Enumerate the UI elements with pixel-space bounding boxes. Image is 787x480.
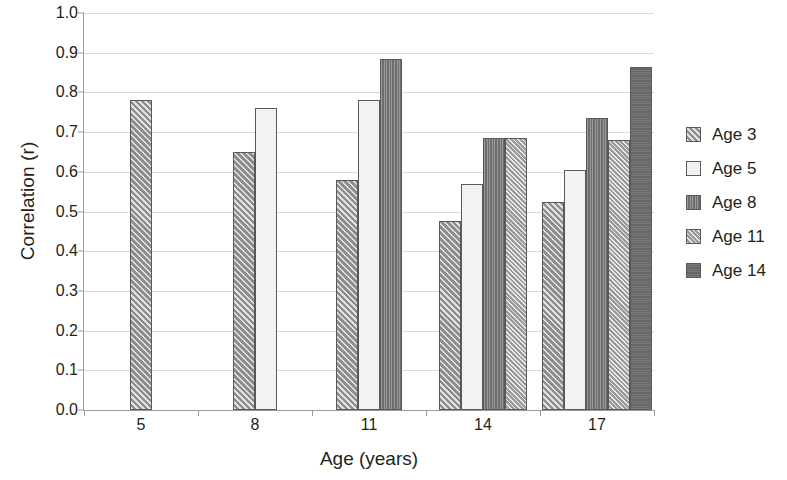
legend-item: Age 11 — [686, 228, 766, 245]
bar — [630, 67, 652, 410]
legend-swatch-icon — [686, 195, 701, 210]
plot-area — [84, 13, 654, 410]
y-axis-tick-labels: 0.00.10.20.30.40.50.60.70.80.91.0 — [36, 0, 78, 440]
bar — [483, 138, 505, 410]
y-axis-tick-label: 1.0 — [56, 5, 78, 21]
y-axis-tick-label: 0.9 — [56, 45, 78, 61]
x-axis-title: Age (years) — [84, 448, 654, 470]
bar — [130, 100, 152, 410]
legend-swatch-icon — [686, 161, 701, 176]
bar — [461, 184, 483, 410]
y-axis-tick-label: 0.4 — [56, 243, 78, 259]
legend-item: Age 3 — [686, 126, 766, 143]
bar — [255, 108, 277, 410]
bar — [608, 140, 630, 410]
x-axis-tick-label: 14 — [474, 416, 492, 434]
bar — [542, 202, 564, 410]
legend-swatch-icon — [686, 263, 701, 278]
legend-swatch-icon — [686, 229, 701, 244]
legend-item: Age 5 — [686, 160, 766, 177]
y-axis-tick-label: 0.8 — [56, 84, 78, 100]
y-axis-tick-label: 0.7 — [56, 124, 78, 140]
legend-item: Age 14 — [686, 262, 766, 279]
y-axis-tick-label: 0.3 — [56, 283, 78, 299]
bar-group — [198, 13, 312, 410]
x-axis-tick-labels: 58111417 — [84, 416, 654, 440]
bar-group — [312, 13, 426, 410]
bar-group — [84, 13, 198, 410]
legend-label: Age 14 — [712, 262, 766, 279]
bar — [586, 118, 608, 410]
bar-chart: Correlation (r) 0.00.10.20.30.40.50.60.7… — [0, 0, 787, 480]
bar — [358, 100, 380, 410]
y-axis-tick-label: 0.1 — [56, 362, 78, 378]
y-axis-tick-label: 0.2 — [56, 323, 78, 339]
bar — [336, 180, 358, 410]
y-axis-tick-label: 0.5 — [56, 204, 78, 220]
legend: Age 3Age 5Age 8Age 11Age 14 — [686, 126, 766, 279]
legend-label: Age 8 — [712, 194, 756, 211]
bar — [564, 170, 586, 410]
x-axis-tick-label: 11 — [361, 416, 378, 434]
y-axis-tick-label: 0.0 — [56, 402, 78, 418]
legend-label: Age 5 — [712, 160, 756, 177]
bar-groups — [84, 13, 654, 410]
bar-group — [426, 13, 540, 410]
legend-label: Age 11 — [712, 228, 765, 245]
gridline — [84, 410, 654, 411]
bar — [233, 152, 255, 410]
bar-group — [540, 13, 654, 410]
legend-swatch-icon — [686, 127, 701, 142]
bar — [505, 138, 527, 410]
y-axis-tick-label: 0.6 — [56, 164, 78, 180]
legend-label: Age 3 — [712, 126, 756, 143]
x-axis-tick — [654, 410, 655, 416]
bar — [439, 221, 461, 410]
legend-item: Age 8 — [686, 194, 766, 211]
x-axis-tick-label: 17 — [588, 416, 606, 434]
x-axis-tick-label: 8 — [251, 416, 260, 434]
x-axis-tick-label: 5 — [137, 416, 146, 434]
bar — [380, 59, 402, 410]
